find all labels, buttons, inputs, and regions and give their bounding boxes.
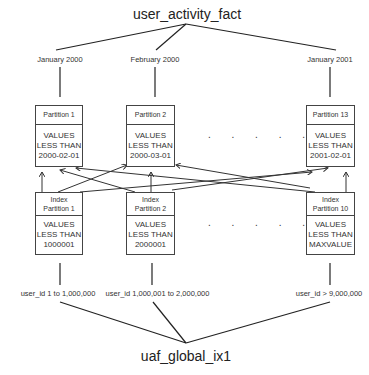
edge-index-r1 — [60, 302, 186, 343]
table-partition-box: Partition 1 VALUES LESS THAN 2000-02-01 — [35, 105, 83, 167]
table-name: user_activity_fact — [124, 6, 250, 22]
bound-text: LESS THAN — [36, 230, 82, 240]
index-bound: VALUES LESS THAN 1000001 — [36, 216, 82, 250]
index-bound: VALUES LESS THAN MAXVALUE — [307, 216, 354, 250]
bound-text: LESS THAN — [307, 141, 354, 151]
range-label: user_id > 9,000,000 — [290, 289, 368, 298]
edge-index-r2 — [153, 302, 186, 343]
partition-bound: VALUES LESS THAN 2000-02-01 — [36, 125, 82, 161]
partition-name: Partition 2 — [127, 106, 174, 125]
index-partition-name: Index Partition 10 — [307, 193, 354, 216]
edge-table-p2 — [156, 24, 186, 50]
name-text: Partition 1 — [36, 205, 82, 214]
bound-text: LESS THAN — [36, 141, 82, 151]
partition-bound: VALUES LESS THAN 2000-03-01 — [127, 125, 174, 161]
bound-text: LESS THAN — [127, 230, 174, 240]
edge-table-p13 — [186, 24, 336, 50]
index-bound: VALUES LESS THAN 2000001 — [127, 216, 174, 250]
bound-text: LESS THAN — [307, 230, 354, 240]
name-text: Index — [127, 196, 174, 205]
ellipsis: . . . . . — [208, 129, 314, 140]
bound-text: LESS THAN — [127, 141, 174, 151]
bound-text: VALUES — [127, 220, 174, 230]
index-partition-box: Index Partition 2 VALUES LESS THAN 20000… — [126, 192, 175, 255]
period-label: January 2001 — [300, 55, 360, 64]
period-label: January 2000 — [30, 55, 90, 64]
partition-name: Partition 1 — [36, 106, 82, 125]
bound-value: MAXVALUE — [307, 240, 354, 250]
bound-value: 1000001 — [36, 240, 82, 250]
index-partition-box: Index Partition 1 VALUES LESS THAN 10000… — [35, 192, 83, 255]
ellipsis: . . . . . — [208, 217, 314, 228]
index-partition-name: Index Partition 1 — [36, 193, 82, 216]
period-label: February 2000 — [124, 55, 186, 64]
bound-text: VALUES — [127, 131, 174, 141]
index-partition-name: Index Partition 2 — [127, 193, 174, 216]
bound-text: VALUES — [307, 220, 354, 230]
range-label: user_id 1 to 1,000,000 — [8, 289, 108, 298]
bound-value: 2001-02-01 — [307, 151, 354, 161]
bound-text: VALUES — [307, 131, 354, 141]
bound-value: 2000-02-01 — [36, 151, 82, 161]
bound-value: 2000-03-01 — [127, 151, 174, 161]
arrow-ip2-p1 — [60, 170, 135, 192]
name-text: Index — [307, 196, 354, 205]
name-text: Partition 10 — [307, 205, 354, 214]
bound-text: VALUES — [36, 131, 82, 141]
arrow-ip1-p2 — [58, 165, 127, 192]
name-text: Index — [36, 196, 82, 205]
edge-table-p1 — [56, 24, 186, 50]
bound-value: 2000001 — [127, 240, 174, 250]
name-text: Partition 2 — [127, 205, 174, 214]
edge-index-r10 — [186, 302, 330, 343]
table-partition-box: Partition 2 VALUES LESS THAN 2000-03-01 — [126, 105, 175, 167]
index-name: uaf_global_ix1 — [130, 348, 242, 364]
bound-text: VALUES — [36, 220, 82, 230]
partition-name: Partition 13 — [307, 106, 354, 125]
partition-bound: VALUES LESS THAN 2001-02-01 — [307, 125, 354, 161]
range-label: user_id 1,000,001 to 2,000,000 — [100, 289, 215, 298]
arrow-ip10-p1 — [76, 168, 315, 192]
